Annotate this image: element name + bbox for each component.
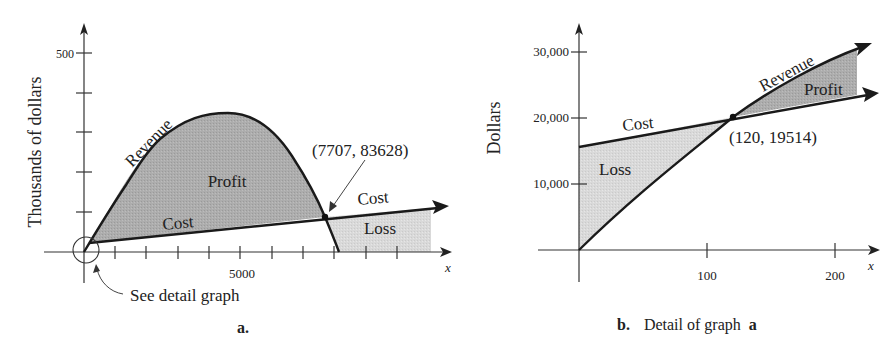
y-tick-label-10000: 10,000 — [533, 176, 569, 191]
detail-arrowhead-icon — [93, 264, 100, 273]
profit-label-a: Profit — [208, 172, 247, 191]
detail-note-label: See detail graph — [130, 286, 240, 305]
cost-label-b: Cost — [621, 113, 654, 135]
x-axis-var-a: x — [444, 260, 451, 275]
loss-label-a: Loss — [364, 219, 396, 238]
figure: Thousands of dollars 500 5000 x Revenue … — [0, 0, 887, 352]
x-axis-var-b: x — [867, 258, 874, 273]
graph-b: Dollars 30,000 20,000 10,000 100 200 x C… — [484, 23, 880, 334]
cost-arrow-icon — [432, 200, 449, 214]
caption-b-prefix: b. — [617, 316, 630, 333]
caption-b-text: Detail of graph — [644, 316, 741, 334]
graph-a: Thousands of dollars 500 5000 x Revenue … — [25, 23, 452, 336]
x-tick-label-5000: 5000 — [229, 266, 255, 281]
y-axis-label-b: Dollars — [484, 102, 504, 155]
y-tick-label-30000: 30,000 — [533, 44, 569, 59]
y-tick-label-20000: 20,000 — [533, 110, 569, 125]
intersection-point-b — [730, 114, 736, 120]
y-tick-label-500: 500 — [56, 47, 74, 61]
y-axis-label-a: Thousands of dollars — [25, 77, 45, 228]
intersection-point-a — [322, 214, 328, 220]
x-tick-label-200: 200 — [825, 268, 845, 283]
caption-b-suffix: a — [749, 316, 757, 333]
loss-label-b: Loss — [599, 160, 631, 179]
x-tick-label-100: 100 — [697, 268, 717, 283]
caption-b: b. Detail of graph a — [617, 316, 757, 334]
intersection-label-b: (120, 19514) — [729, 128, 817, 147]
profit-label-b: Profit — [804, 80, 843, 99]
cost-label-outer-a: Cost — [357, 187, 390, 209]
intersection-label-a: (7707, 83628) — [312, 141, 408, 160]
caption-a: a. — [237, 319, 249, 336]
detail-pointer-a — [97, 269, 123, 294]
cost-label-inner-a: Cost — [162, 212, 195, 234]
